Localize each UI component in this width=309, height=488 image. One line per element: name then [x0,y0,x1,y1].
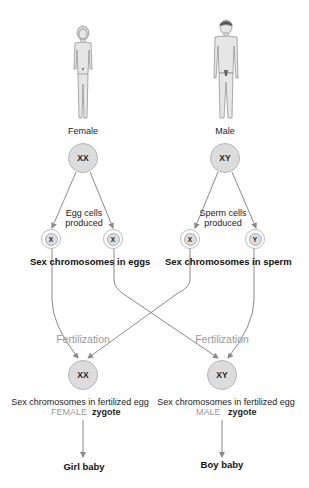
female-zygote: XX [68,360,98,390]
right-zygote-type: MALE zygote [196,407,257,417]
male-parent-chromosomes: XY [210,143,240,173]
egg-caption-line1: Egg cells [65,208,103,218]
female-parent-chromosomes: XX [68,143,98,173]
sperm-cell-2: Y [245,229,265,249]
right-zygote-word: zygote [228,407,257,417]
egg-cell-1-chromosome: X [45,233,58,246]
right-zygote-caption: Sex chromosomes in fertilized egg [157,397,295,407]
egg-cell-2-chromosome: X [107,233,120,246]
egg-caption-line2: produced [65,218,103,228]
sperm-cell-1-chromosome: X [184,233,197,246]
female-sex-label: FEMALE [51,407,87,417]
girl-baby-label: Girl baby [63,461,104,472]
boy-baby-label: Boy baby [201,459,244,470]
egg-cell-1: X [41,229,61,249]
sperm-cell-1: X [180,229,200,249]
sperm-heading: Sex chromosomes in sperm [165,256,292,267]
male-sex-label: MALE [196,407,221,417]
male-zygote: XY [207,360,237,390]
sperm-cells-caption: Sperm cells produced [199,208,246,228]
male-label: Male [215,126,235,136]
left-zygote-caption: Sex chromosomes in fertilized egg [11,397,149,407]
fertilization-right-label: Fertilization [195,333,249,345]
sperm-caption-line1: Sperm cells [199,208,246,218]
fertilization-left-label: Fertilization [56,333,110,345]
female-label: Female [68,126,98,136]
sperm-cell-2-chromosome: Y [249,233,262,246]
sperm-caption-line2: produced [199,218,246,228]
left-zygote-word: zygote [92,407,121,417]
egg-cells-caption: Egg cells produced [65,208,103,228]
egg-cell-2: X [103,229,123,249]
left-zygote-type: FEMALE zygote [51,407,121,417]
male-figure-icon [210,18,242,122]
female-figure-icon [70,24,96,122]
eggs-heading: Sex chromosomes in eggs [30,256,150,267]
